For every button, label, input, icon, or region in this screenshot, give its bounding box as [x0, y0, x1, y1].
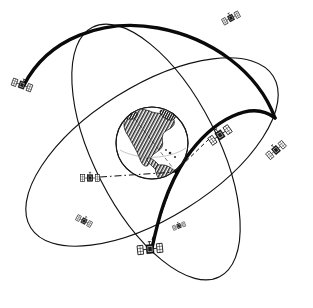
ground-receiver-dot: [175, 171, 178, 174]
constellation-figure: GNSS Satellite Constellation Line drawin…: [0, 0, 313, 308]
constellation-canvas: [0, 0, 313, 308]
